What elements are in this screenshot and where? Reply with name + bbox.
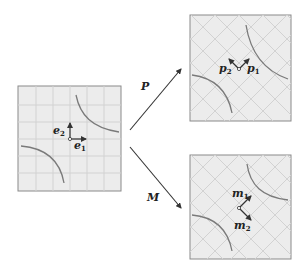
label-P: P bbox=[140, 80, 150, 93]
left-panel: e2 e1 bbox=[18, 86, 121, 191]
bottom-right-panel: m1 m2 bbox=[105, 155, 308, 265]
diagram: e2 e1 P M bbox=[0, 0, 308, 276]
origin-point bbox=[68, 137, 71, 140]
label-M: M bbox=[146, 191, 160, 204]
map-arrow-M: M bbox=[130, 147, 181, 208]
origin-point bbox=[237, 67, 240, 70]
map-arrow-P: P bbox=[130, 69, 181, 130]
top-right-panel: p2 p1 bbox=[105, 15, 308, 125]
origin-point bbox=[237, 206, 240, 209]
